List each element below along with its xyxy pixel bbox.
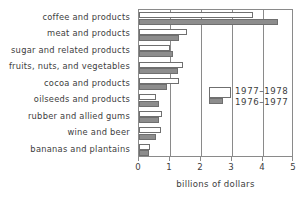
x-axis: 012345 xyxy=(138,157,293,177)
x-tick-mark xyxy=(200,157,201,161)
x-tick-mark xyxy=(262,157,263,161)
bar-previous xyxy=(139,134,156,140)
bar-current xyxy=(139,144,150,150)
bar-group xyxy=(139,125,292,141)
bar-previous xyxy=(139,101,159,107)
category-label: fruits, nuts, and vegetables xyxy=(9,58,130,74)
bar-previous xyxy=(139,51,173,57)
category-label: meat and products xyxy=(47,25,130,41)
category-label: wine and beer xyxy=(68,124,130,140)
bar-previous xyxy=(139,117,159,123)
x-tick-label: 0 xyxy=(135,162,140,172)
legend-swatch-1977-1978-icon xyxy=(209,87,231,98)
category-label: rubber and allied gums xyxy=(28,108,130,124)
bar-previous xyxy=(139,35,179,41)
bar-previous xyxy=(139,150,149,156)
bar-previous xyxy=(139,68,178,74)
bar-current xyxy=(139,78,179,84)
category-label: oilseeds and products xyxy=(34,91,130,107)
x-tick-mark xyxy=(138,157,139,161)
bars-layer xyxy=(139,10,292,156)
x-tick-label: 2 xyxy=(197,162,202,172)
bar-current xyxy=(139,29,187,35)
bar-group xyxy=(139,109,292,125)
bar-current xyxy=(139,127,161,133)
bar-previous xyxy=(139,84,167,90)
category-axis-labels: coffee and productsmeat and productssuga… xyxy=(0,9,134,157)
bar-group xyxy=(139,43,292,59)
chart-legend: 1977–1978 1976–1977 xyxy=(209,87,293,109)
category-label: sugar and related products xyxy=(11,42,130,58)
category-label: coffee and products xyxy=(42,9,130,25)
bar-current xyxy=(139,94,156,100)
bar-group xyxy=(139,59,292,75)
legend-label-1977-1978: 1977–1978 xyxy=(235,86,288,96)
bar-group xyxy=(139,26,292,42)
bar-group xyxy=(139,10,292,26)
bar-chart: coffee and productsmeat and productssuga… xyxy=(0,0,307,208)
bar-current xyxy=(139,45,170,51)
bar-group xyxy=(139,142,292,158)
bar-current xyxy=(139,62,183,68)
bar-current xyxy=(139,12,253,18)
legend-label-1976-1977: 1976–1977 xyxy=(235,97,288,107)
x-tick-label: 5 xyxy=(290,162,295,172)
plot-area: 1977–1978 1976–1977 xyxy=(138,9,293,157)
category-label: cocoa and products xyxy=(44,75,130,91)
bar-current xyxy=(139,111,162,117)
x-tick-label: 4 xyxy=(259,162,264,172)
bar-previous xyxy=(139,19,278,25)
x-tick-mark xyxy=(292,157,293,161)
category-label: bananas and plantains xyxy=(30,141,130,157)
x-tick-label: 3 xyxy=(228,162,233,172)
x-tick-mark xyxy=(231,157,232,161)
x-tick-mark xyxy=(169,157,170,161)
legend-swatch-1976-1977-icon xyxy=(209,98,223,104)
x-axis-title: billions of dollars xyxy=(138,179,293,189)
x-tick-label: 1 xyxy=(166,162,171,172)
